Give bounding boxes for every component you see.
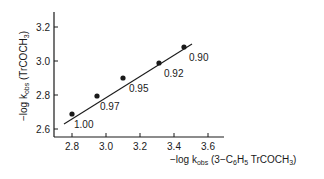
y-tick-label: 2.6 — [36, 124, 50, 135]
x-tick-label: 2.8 — [65, 141, 79, 152]
x-ticks: 2.8 3.0 3.2 3.4 3.6 — [65, 133, 215, 152]
y-ticks: 2.6 2.8 3.0 3.2 — [36, 22, 58, 135]
y-tick-label: 2.8 — [36, 90, 50, 101]
y-tick-label: 3.0 — [36, 56, 50, 67]
x-tick-label: 3.6 — [201, 141, 215, 152]
data-points — [69, 44, 186, 116]
y-tick-label: 3.2 — [36, 22, 50, 33]
data-point — [120, 75, 125, 80]
y-axis-title: −log kobs (TrCOCH3) — [18, 31, 30, 121]
scatter-chart: 2.6 2.8 3.0 3.2 2.8 3.0 3.2 3.4 3.6 1.00… — [0, 0, 324, 179]
data-point — [94, 93, 99, 98]
x-axis-title: −log kobs (3−C6H5 TrCOCH3) — [170, 154, 296, 166]
data-point — [181, 44, 186, 49]
point-label: 0.95 — [129, 83, 149, 94]
point-label: 0.92 — [164, 68, 184, 79]
regression-line — [64, 44, 192, 124]
x-tick-label: 3.4 — [167, 141, 181, 152]
data-point — [69, 111, 74, 116]
point-labels: 1.00 0.97 0.95 0.92 0.90 — [74, 52, 209, 130]
x-tick-label: 3.0 — [99, 141, 113, 152]
point-label: 0.90 — [189, 52, 209, 63]
point-label: 1.00 — [74, 119, 94, 130]
point-label: 0.97 — [100, 101, 120, 112]
x-tick-label: 3.2 — [133, 141, 147, 152]
data-point — [156, 60, 161, 65]
